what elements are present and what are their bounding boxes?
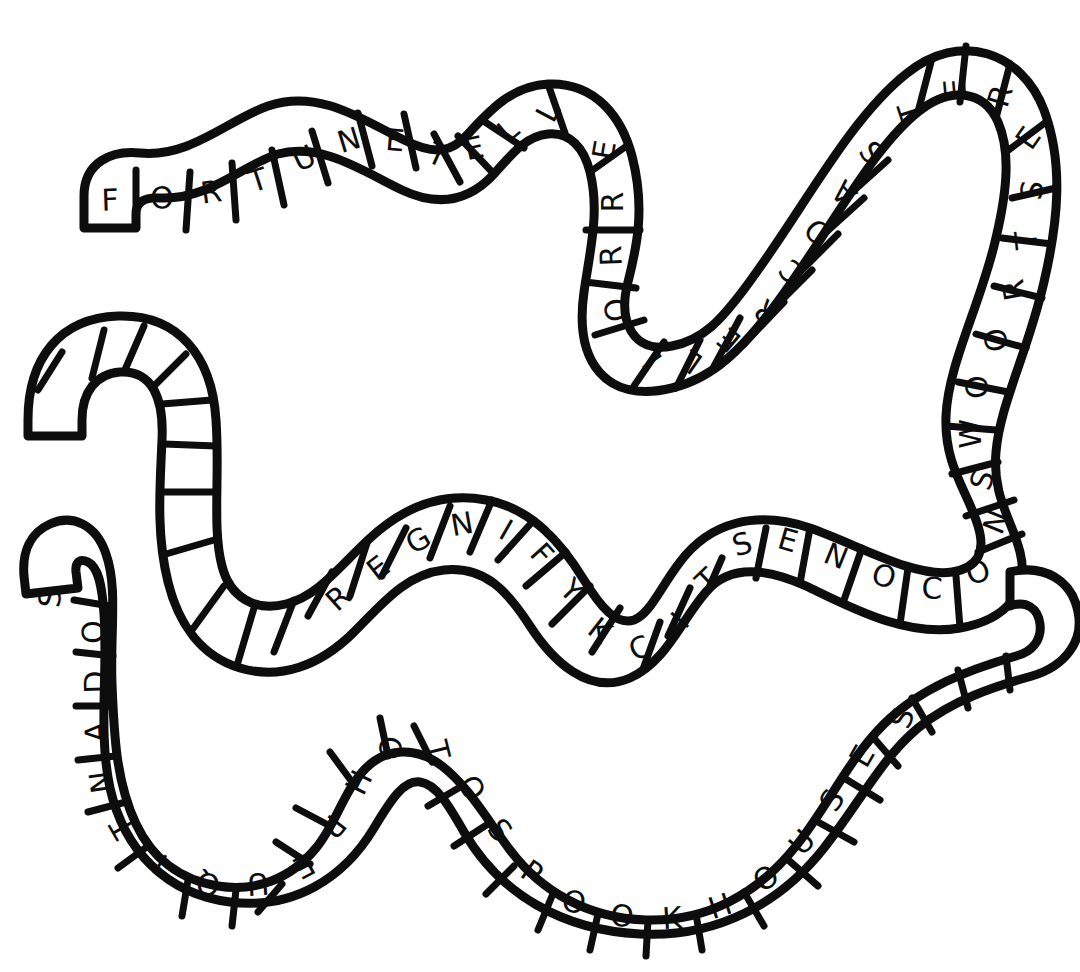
band-cell-letter: O — [149, 180, 174, 216]
artwork-canvas: F O R T U N E T E L L E R R O L L E R C — [0, 0, 1080, 972]
band-cell-letter: E — [937, 77, 974, 99]
band-cell-letter: C — [921, 570, 944, 606]
band-cell-letter: R — [593, 245, 629, 267]
band-cell-letter: Q — [194, 865, 222, 903]
serpentine-band-illustration: F O R T U N E T E L L E R R O L L E R C — [0, 0, 1080, 972]
band-cell-letter: U — [246, 866, 270, 902]
band-cell-letter: O — [75, 620, 111, 645]
band-cell-letter: F — [101, 182, 119, 218]
band-cell-letter: N — [82, 768, 120, 795]
band-cell-letter: A — [78, 721, 114, 743]
band-cell-letter: E — [384, 122, 406, 159]
band-top: F O R T U N E T E L L E R R O L L E R C — [28, 46, 1057, 683]
band-cell-letter: R — [595, 192, 630, 213]
band-cell-letter: K — [661, 900, 684, 936]
band-cell-letter: O — [609, 898, 634, 934]
band-cell-letter: T — [243, 160, 273, 199]
band-cell-letter: W — [953, 419, 988, 449]
band-cell-letter: O — [958, 373, 996, 401]
band-cell-letter: S — [32, 587, 68, 608]
band-cell-letter: D — [77, 670, 113, 694]
